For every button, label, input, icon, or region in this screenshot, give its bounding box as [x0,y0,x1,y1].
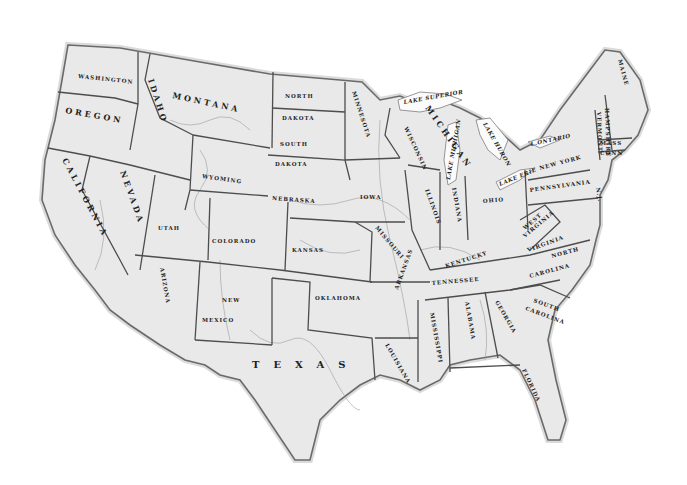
label-north-dakota-2: DAKOTA [282,115,315,121]
label-south-dakota-2: DAKOTA [275,161,308,167]
label-connecticut: CONN [600,150,623,156]
label-new-mexico-1: NEW [222,297,240,303]
label-new-mexico-2: MEXICO [202,317,234,323]
label-massachusetts: MASS [600,140,622,146]
label-utah: UTAH [158,225,180,231]
label-oklahoma: OKLAHOMA [315,295,361,301]
label-kansas: KANSAS [292,247,324,253]
label-south-dakota-1: SOUTH [280,141,308,147]
label-texas: TEXAS [252,359,359,370]
label-north-dakota-1: NORTH [285,93,314,99]
us-map: WASHINGTON OREGON CALIFORNIA IDAHO NEVAD… [0,0,687,485]
label-iowa: IOWA [360,194,381,200]
label-colorado: COLORADO [212,238,256,244]
